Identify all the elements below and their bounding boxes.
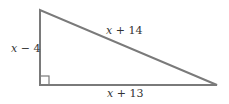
triangle-diagram: x − 4 x + 14 x + 13: [0, 0, 229, 104]
right-angle-marker: [40, 76, 49, 85]
horizontal-leg-label: x + 13: [107, 88, 143, 100]
hypotenuse-label: x + 14: [106, 25, 142, 37]
vertical-leg-label: x − 4: [11, 43, 40, 55]
right-triangle-shape: [40, 10, 217, 85]
